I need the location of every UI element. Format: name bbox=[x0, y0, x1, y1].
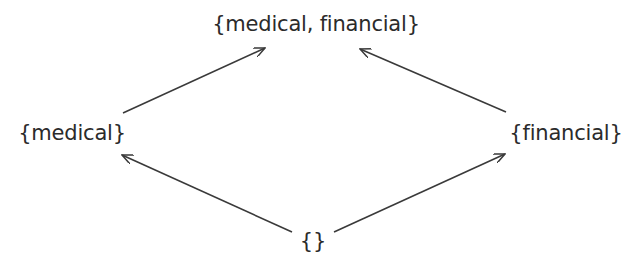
edge-arrow-right-to-top bbox=[360, 49, 506, 112]
node-bottom: {} bbox=[300, 229, 326, 253]
node-left: {medical} bbox=[18, 121, 126, 145]
edge-arrow-bottom-to-left bbox=[122, 155, 292, 232]
node-right: {financial} bbox=[509, 121, 622, 145]
edge-arrow-left-to-top bbox=[123, 48, 265, 113]
node-top: {medical, financial} bbox=[212, 12, 420, 36]
edge-arrow-bottom-to-right bbox=[334, 154, 505, 232]
lattice-diagram: {medical, financial} {medical} {financia… bbox=[0, 0, 634, 273]
